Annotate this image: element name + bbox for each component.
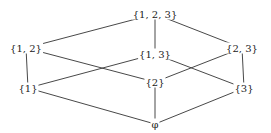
- edge-n3-n0: [155, 88, 244, 124]
- node-n3: {3}: [233, 83, 254, 94]
- node-n0: φ: [150, 119, 159, 130]
- node-n12: {1, 2}: [9, 43, 43, 54]
- node-n1: {1}: [17, 83, 38, 94]
- hasse-diagram: {1, 2, 3}{1, 2}{1, 3}{2, 3}{1}{2}{3}φ: [0, 0, 271, 133]
- edge-n13-n1: [28, 54, 155, 88]
- node-n23: {2, 3}: [225, 43, 259, 54]
- edges-layer: [0, 0, 271, 133]
- edge-n12-n2: [26, 48, 155, 82]
- node-n13: {1, 3}: [138, 49, 172, 60]
- node-n123: {1, 2, 3}: [132, 9, 179, 20]
- edge-n1-n0: [28, 88, 155, 124]
- node-n2: {2}: [144, 77, 165, 88]
